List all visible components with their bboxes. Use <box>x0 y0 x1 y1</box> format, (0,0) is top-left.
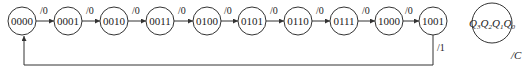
state-0101: 0101 <box>238 7 266 35</box>
legend-state-label: Q3Q2Q1Q0 <box>469 17 515 31</box>
svg-text:/0: /0 <box>270 5 278 16</box>
transition-0001-0010: /0 <box>82 5 100 21</box>
transition-0100-0101: /0 <box>221 5 238 21</box>
transition-0000-0001: /0 <box>36 5 54 21</box>
transition-1001-0000: /1 <box>24 35 445 65</box>
state-0110: 0110 <box>284 7 312 35</box>
transition-0111-1000: /0 <box>358 5 375 21</box>
svg-text:0010: 0010 <box>103 15 126 27</box>
state-0010: 0010 <box>100 7 128 35</box>
state-0001: 0001 <box>54 7 82 35</box>
svg-text:1000: 1000 <box>378 15 401 27</box>
transition-1000-1001: /0 <box>403 5 419 21</box>
transition-0110-0111: /0 <box>312 5 330 21</box>
svg-text:/0: /0 <box>224 5 232 16</box>
svg-text:0011: 0011 <box>149 15 171 27</box>
svg-text:0000: 0000 <box>11 15 34 27</box>
svg-text:0100: 0100 <box>196 15 219 27</box>
legend-output-label: /C <box>510 49 522 61</box>
transition-0101-0110: /0 <box>266 5 284 21</box>
state-0011: 0011 <box>146 7 174 35</box>
svg-text:1001: 1001 <box>422 15 444 27</box>
svg-text:0101: 0101 <box>241 15 263 27</box>
svg-text:/0: /0 <box>316 5 324 16</box>
legend-state: Q3Q2Q1Q0 /C <box>469 3 522 61</box>
state-1001: 1001 <box>419 7 447 35</box>
state-0100: 0100 <box>193 7 221 35</box>
svg-text:0110: 0110 <box>287 15 309 27</box>
svg-text:/0: /0 <box>405 5 413 16</box>
svg-text:/0: /0 <box>178 5 186 16</box>
svg-text:/1: /1 <box>437 42 445 53</box>
svg-text:/0: /0 <box>86 5 94 16</box>
state-0000: 0000 <box>8 7 36 35</box>
svg-text:0001: 0001 <box>57 15 79 27</box>
state-diagram: 0000 0001 0010 0011 0100 0101 0110 0111 … <box>0 0 525 70</box>
state-0111: 0111 <box>330 7 358 35</box>
transition-0011-0100: /0 <box>174 5 193 21</box>
svg-text:0111: 0111 <box>333 15 354 27</box>
svg-text:/0: /0 <box>40 5 48 16</box>
svg-text:/0: /0 <box>132 5 140 16</box>
transition-0010-0011: /0 <box>128 5 146 21</box>
svg-text:/0: /0 <box>362 5 370 16</box>
state-1000: 1000 <box>375 7 403 35</box>
